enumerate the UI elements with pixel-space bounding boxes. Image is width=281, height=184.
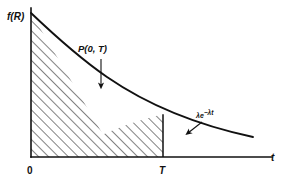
figure-container: f(R) t 0 T P(0, T) λe−λt [0,0,281,184]
shaded-probability-region [31,13,163,157]
x-tick-T: T [159,165,166,176]
density-annotation-base: λe [195,112,204,119]
y-axis-label: f(R) [7,11,25,22]
density-label-leader [188,122,202,133]
x-tick-origin: 0 [27,165,33,176]
exponential-density-chart: f(R) t 0 T P(0, T) λe−λt [0,0,281,184]
density-annotation-exponent: −λt [204,109,214,116]
density-annotation: λe−λt [195,109,214,120]
probability-annotation: P(0, T) [78,43,107,54]
x-axis-label: t [271,152,275,163]
